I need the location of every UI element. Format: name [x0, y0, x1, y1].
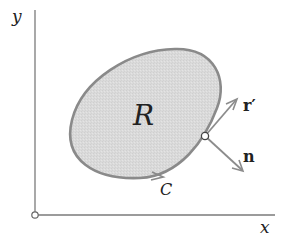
- origin-point: [32, 212, 38, 218]
- y-axis-label: y: [11, 6, 22, 26]
- green-theorem-diagram: y x R C r′ n: [0, 0, 286, 237]
- normal-label: n: [243, 147, 255, 166]
- point-on-curve: [201, 132, 208, 139]
- normal-vector-n: [205, 136, 242, 170]
- curve-label: C: [160, 180, 172, 199]
- x-axis-label: x: [260, 217, 270, 237]
- tangent-label: r′: [243, 96, 256, 115]
- region-label: R: [132, 99, 154, 132]
